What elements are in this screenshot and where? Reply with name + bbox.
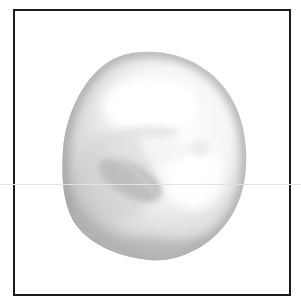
blob-highlight-center bbox=[140, 138, 190, 162]
blob-gray-patch bbox=[120, 126, 180, 138]
blob-highlight-top bbox=[102, 77, 198, 133]
blob-gray-patch-2 bbox=[190, 140, 210, 156]
blob-image bbox=[0, 0, 301, 300]
guide-line bbox=[0, 184, 301, 185]
blob-mid-shade bbox=[75, 130, 155, 220]
